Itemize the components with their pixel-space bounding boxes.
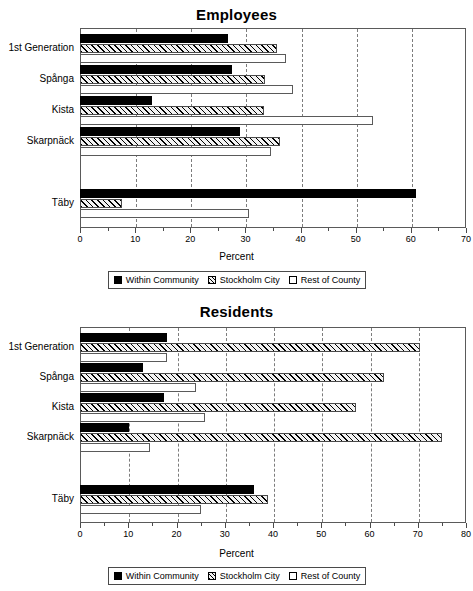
legend-swatch-rest-of-county-icon <box>289 572 297 580</box>
bar-county <box>80 209 249 218</box>
gridline <box>322 328 323 522</box>
legend-label-stockholm-city: Stockholm City <box>220 275 280 285</box>
x-axis-tick-label: 50 <box>308 529 334 539</box>
x-axis-minor-tick <box>104 523 105 526</box>
bar-within <box>80 485 254 494</box>
x-axis-tick <box>177 523 178 528</box>
legend-swatch-within-community-icon <box>114 572 122 580</box>
legend-label-stockholm-city: Stockholm City <box>220 571 280 581</box>
gridline <box>371 328 372 522</box>
x-axis-minor-tick <box>218 228 219 231</box>
x-axis-minor-tick <box>163 228 164 231</box>
x-axis-tick-label: 50 <box>343 234 369 244</box>
legend-item-stockholm-city: Stockholm City <box>208 571 280 581</box>
x-axis-tick-label: 40 <box>288 234 314 244</box>
bar-within <box>80 34 228 43</box>
x-axis-tick <box>135 228 136 233</box>
legend-item-within-community: Within Community <box>114 571 199 581</box>
category-label: Skarpnäck <box>0 431 74 442</box>
legend-label-within-community: Within Community <box>126 275 199 285</box>
residents-chart: Residents Percent Within Community Stock… <box>0 295 473 591</box>
x-axis-tick-label: 30 <box>212 529 238 539</box>
x-axis-minor-tick <box>249 523 250 526</box>
bar-city <box>80 373 384 382</box>
chart-title-residents: Residents <box>0 303 473 320</box>
x-axis-tick <box>466 228 467 233</box>
x-axis-tick <box>411 228 412 233</box>
legend-label-rest-of-county: Rest of County <box>301 571 361 581</box>
x-axis-tick <box>466 523 467 528</box>
x-axis-minor-tick <box>438 228 439 231</box>
bar-city <box>80 433 442 442</box>
x-axis-tick <box>370 523 371 528</box>
legend-item-rest-of-county: Rest of County <box>289 275 361 285</box>
bar-city <box>80 343 420 352</box>
x-axis-tick-label: 20 <box>164 529 190 539</box>
bar-city <box>80 403 356 412</box>
x-axis-tick-label: 70 <box>405 529 431 539</box>
category-label: Kista <box>0 104 74 115</box>
x-axis-title-employees: Percent <box>0 251 473 262</box>
x-axis-tick-label: 60 <box>398 234 424 244</box>
x-axis-tick-label: 80 <box>453 529 473 539</box>
category-label: Skarpnäck <box>0 135 74 146</box>
x-axis-tick <box>128 523 129 528</box>
bar-city <box>80 137 280 146</box>
x-axis-tick-label: 30 <box>232 234 258 244</box>
x-axis-minor-tick <box>201 523 202 526</box>
category-label: Spånga <box>0 73 74 84</box>
x-axis-minor-tick <box>297 523 298 526</box>
x-axis-tick <box>418 523 419 528</box>
legend-item-stockholm-city: Stockholm City <box>208 275 280 285</box>
chart-title-employees: Employees <box>0 6 473 23</box>
x-axis-tick <box>190 228 191 233</box>
bar-within <box>80 127 240 136</box>
x-axis-title-residents: Percent <box>0 548 473 559</box>
bar-within <box>80 363 143 372</box>
legend-swatch-within-community-icon <box>114 276 122 284</box>
x-axis-tick-label: 20 <box>177 234 203 244</box>
x-axis-tick-label: 70 <box>453 234 473 244</box>
x-axis-minor-tick <box>328 228 329 231</box>
category-label: Täby <box>0 197 74 208</box>
bar-within <box>80 189 416 198</box>
x-axis-minor-tick <box>273 228 274 231</box>
bar-county <box>80 147 271 156</box>
legend-item-within-community: Within Community <box>114 275 199 285</box>
legend-residents: Within Community Stockholm City Rest of … <box>108 567 366 585</box>
employees-chart: Employees Percent Within Community Stock… <box>0 0 473 295</box>
bar-within <box>80 65 232 74</box>
bar-within <box>80 333 167 342</box>
bar-within <box>80 393 164 402</box>
legend-swatch-rest-of-county-icon <box>289 276 297 284</box>
x-axis-tick-label: 10 <box>115 529 141 539</box>
x-axis-tick <box>80 523 81 528</box>
bar-city <box>80 106 264 115</box>
x-axis-minor-tick <box>442 523 443 526</box>
legend-swatch-stockholm-city-icon <box>208 276 216 284</box>
legend-label-within-community: Within Community <box>126 571 199 581</box>
x-axis-minor-tick <box>108 228 109 231</box>
x-axis-tick-label: 60 <box>357 529 383 539</box>
x-axis-minor-tick <box>394 523 395 526</box>
bar-county <box>80 353 167 362</box>
bar-county <box>80 443 150 452</box>
x-axis-tick <box>356 228 357 233</box>
bar-county <box>80 383 196 392</box>
bar-city <box>80 199 122 208</box>
x-axis-tick-label: 0 <box>67 529 93 539</box>
x-axis-tick <box>273 523 274 528</box>
bar-county <box>80 505 201 514</box>
x-axis-tick <box>225 523 226 528</box>
category-label: 1st Generation <box>0 341 74 352</box>
bar-county <box>80 413 205 422</box>
gridline <box>274 328 275 522</box>
x-axis-tick <box>80 228 81 233</box>
bar-city <box>80 75 265 84</box>
x-axis-minor-tick <box>383 228 384 231</box>
legend-employees: Within Community Stockholm City Rest of … <box>108 271 366 289</box>
x-axis-minor-tick <box>152 523 153 526</box>
bar-city <box>80 44 277 53</box>
legend-item-rest-of-county: Rest of County <box>289 571 361 581</box>
category-label: 1st Generation <box>0 42 74 53</box>
